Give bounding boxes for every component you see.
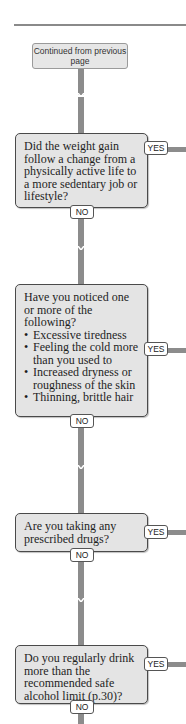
connector-line — [78, 714, 84, 724]
yes-branch-line — [166, 662, 186, 667]
connector-line — [78, 469, 84, 513]
question-box-prescribed-drugs: Are you taking any prescribed drugs? — [15, 513, 148, 552]
no-badge: NO — [70, 700, 94, 714]
yes-branch-line — [166, 348, 186, 353]
no-badge: NO — [70, 548, 94, 562]
question-box-sedentary-lifestyle: Did the weight gain follow a change from… — [15, 133, 148, 208]
question-text: Did the weight gain follow a change from… — [24, 140, 141, 203]
yes-badge: YES — [144, 525, 168, 539]
question-box-hypothyroid-symptoms: Have you noticed one or more of the foll… — [15, 284, 148, 417]
yes-branch-line — [166, 147, 186, 152]
question-text: Have you noticed one or more of the foll… — [24, 291, 141, 329]
no-badge: NO — [70, 414, 94, 428]
continued-from-previous-page-box: Continued from previous page — [32, 43, 128, 69]
connector-line — [78, 97, 84, 133]
connector-line — [78, 602, 84, 645]
symptom-list: Excessive tiredness Feeling the cold mor… — [24, 329, 141, 404]
symptom-item: Feeling the cold more than you used to — [24, 341, 141, 366]
continued-label: Continued from previous page — [34, 46, 127, 66]
question-text: Are you taking any prescribed drugs? — [24, 520, 141, 545]
symptom-item: Thinning, brittle hair — [24, 391, 141, 404]
yes-badge: YES — [144, 342, 168, 356]
question-box-alcohol-limit: Do you regularly drink more than the rec… — [15, 645, 148, 704]
no-badge: NO — [70, 205, 94, 219]
connector-line — [78, 69, 84, 95]
yes-badge: YES — [144, 657, 168, 671]
yes-branch-line — [166, 530, 186, 535]
connector-line — [78, 250, 84, 284]
connector-line — [78, 427, 84, 469]
symptom-item: Increased dryness or roughness of the sk… — [24, 366, 141, 391]
yes-badge: YES — [144, 141, 168, 155]
question-text: Do you regularly drink more than the rec… — [24, 652, 141, 702]
page-divider-line — [14, 24, 186, 26]
